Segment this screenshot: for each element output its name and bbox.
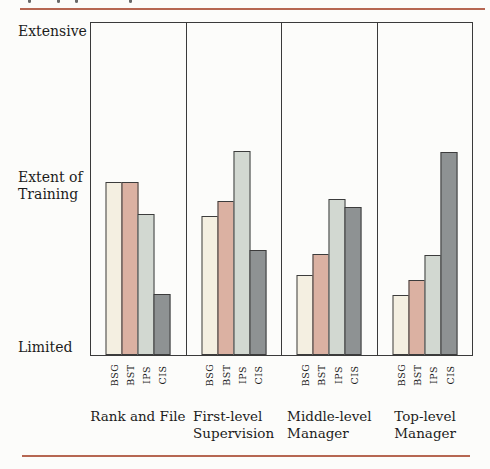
bar-label-cis: CIS bbox=[348, 365, 359, 384]
bar-bst-group4 bbox=[408, 280, 425, 355]
group-caption-2: First-level Supervision bbox=[193, 408, 274, 442]
bar-label-bsg: BSG bbox=[204, 364, 215, 387]
bar-labels-group-1: BSGBSTIPSCIS bbox=[90, 357, 186, 393]
top-rule bbox=[20, 8, 485, 10]
bar-label-cell: BST bbox=[409, 357, 425, 393]
bar-label-bst: BST bbox=[412, 364, 423, 385]
bar-label-cell: IPS bbox=[138, 357, 154, 393]
bar-label-bsg: BSG bbox=[108, 364, 119, 387]
bar-label-cell: IPS bbox=[425, 357, 441, 393]
y-axis-label-limited: Limited bbox=[18, 339, 72, 356]
group-caption-1: Rank and File bbox=[90, 408, 185, 442]
bottom-rule bbox=[22, 455, 470, 457]
group-caption-3: Middle-level Manager bbox=[287, 408, 372, 442]
bar-bsg-group4 bbox=[392, 295, 409, 355]
bar-ips-group3 bbox=[329, 199, 346, 355]
bar-label-cell: BST bbox=[122, 357, 138, 393]
training-extent-figure: Extensive Extent of Training Limited BSG… bbox=[0, 0, 490, 469]
bar-label-bst: BST bbox=[124, 364, 135, 385]
cropped-text-remnant bbox=[75, 0, 78, 3]
bar-label-cell: CIS bbox=[441, 357, 457, 393]
bar-group-1 bbox=[106, 182, 171, 355]
bar-group-4 bbox=[392, 152, 457, 355]
bar-bst-group2 bbox=[217, 201, 234, 355]
cropped-text-remnant bbox=[129, 0, 132, 3]
bar-label-cell: CIS bbox=[154, 357, 170, 393]
bar-label-cell: BSG bbox=[297, 357, 313, 393]
bar-label-ips: IPS bbox=[236, 366, 247, 384]
bar-label-ips: IPS bbox=[332, 366, 343, 384]
bar-label-cell: BST bbox=[217, 357, 233, 393]
bar-label-cell: IPS bbox=[329, 357, 345, 393]
bar-cis-group3 bbox=[345, 207, 362, 355]
bar-label-cell: BSG bbox=[393, 357, 409, 393]
bar-labels-group-4: BSGBSTIPSCIS bbox=[377, 357, 473, 393]
bar-ips-group2 bbox=[233, 151, 250, 355]
bar-cis-group2 bbox=[249, 250, 266, 355]
bar-label-bsg: BSG bbox=[300, 364, 311, 387]
bar-label-ips: IPS bbox=[428, 366, 439, 384]
bar-label-cis: CIS bbox=[253, 365, 264, 384]
bar-ips-group4 bbox=[424, 255, 441, 355]
bar-label-bst: BST bbox=[316, 364, 327, 385]
cropped-text-remnant bbox=[57, 0, 60, 3]
y-axis-label-extent-of-training: Extent of Training bbox=[18, 169, 83, 203]
bar-label-cis: CIS bbox=[157, 365, 168, 384]
bar-bst-group3 bbox=[313, 254, 330, 355]
bar-label-cell: BST bbox=[313, 357, 329, 393]
chart-panel-1 bbox=[91, 23, 187, 355]
bar-label-ips: IPS bbox=[141, 366, 152, 384]
group-caption-4: Top-level Manager bbox=[394, 408, 456, 442]
bar-bsg-group2 bbox=[201, 216, 218, 355]
group-caption-row: Rank and FileFirst-level SupervisionMidd… bbox=[90, 408, 473, 442]
bar-labels-group-3: BSGBSTIPSCIS bbox=[282, 357, 378, 393]
bar-group-3 bbox=[297, 199, 362, 355]
bar-label-bst: BST bbox=[220, 364, 231, 385]
bar-label-cell: CIS bbox=[250, 357, 266, 393]
bar-label-cell: BSG bbox=[201, 357, 217, 393]
bar-cis-group4 bbox=[440, 152, 457, 355]
chart-panel-3 bbox=[282, 23, 378, 355]
bar-bsg-group1 bbox=[106, 182, 123, 355]
bar-label-cell: CIS bbox=[346, 357, 362, 393]
chart-frame bbox=[90, 22, 473, 356]
bar-bsg-group3 bbox=[297, 275, 314, 355]
cropped-text-remnant bbox=[28, 0, 31, 3]
bar-labels-group-2: BSGBSTIPSCIS bbox=[186, 357, 282, 393]
y-axis-label-extensive: Extensive bbox=[18, 23, 87, 40]
bar-bst-group1 bbox=[122, 182, 139, 355]
chart-panel-2 bbox=[187, 23, 283, 355]
bar-label-cell: IPS bbox=[234, 357, 250, 393]
bar-label-cis: CIS bbox=[444, 365, 455, 384]
bar-label-row: BSGBSTIPSCISBSGBSTIPSCISBSGBSTIPSCISBSGB… bbox=[90, 357, 473, 393]
chart-panel-4 bbox=[378, 23, 473, 355]
bar-group-2 bbox=[201, 151, 266, 355]
bar-ips-group1 bbox=[138, 214, 155, 355]
bar-label-bsg: BSG bbox=[395, 364, 406, 387]
bar-label-cell: BSG bbox=[105, 357, 121, 393]
bar-cis-group1 bbox=[154, 294, 171, 355]
